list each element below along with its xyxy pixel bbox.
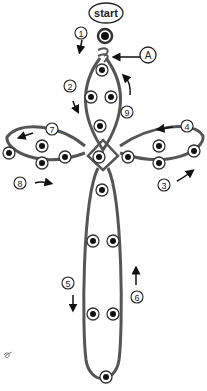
bead <box>94 120 106 132</box>
bead <box>122 151 134 163</box>
step-6: 6 <box>131 291 143 303</box>
svg-text:9: 9 <box>124 108 129 118</box>
step-8: 8 <box>14 177 26 189</box>
beads <box>3 64 200 383</box>
svg-text:A: A <box>145 50 152 61</box>
bead <box>100 371 112 383</box>
svg-text:2: 2 <box>67 82 72 92</box>
bead <box>153 157 165 169</box>
bead <box>96 184 108 196</box>
bead <box>105 91 117 103</box>
step-5: 5 <box>62 277 74 289</box>
start-label: start <box>89 3 123 23</box>
svg-text:7: 7 <box>49 125 54 135</box>
svg-text:5: 5 <box>65 279 70 289</box>
arrow-7 <box>21 133 33 137</box>
step-9: 9 <box>121 106 133 118</box>
step-4: 4 <box>181 120 193 132</box>
bead <box>85 91 97 103</box>
arrow-8 <box>35 182 49 183</box>
svg-text:6: 6 <box>134 293 139 303</box>
step-arrows <box>21 40 191 308</box>
bead <box>93 151 105 163</box>
bead <box>96 64 108 76</box>
bead <box>3 147 15 159</box>
svg-text:3: 3 <box>161 181 166 191</box>
step-2: 2 <box>64 80 76 92</box>
bead <box>188 145 200 157</box>
svg-text:4: 4 <box>184 122 189 132</box>
step-7: 7 <box>46 123 58 135</box>
bead <box>59 151 71 163</box>
bead <box>87 308 99 320</box>
arrow-1 <box>80 40 82 50</box>
bead <box>36 140 48 152</box>
bead <box>36 157 48 169</box>
arrow-2 <box>73 101 77 110</box>
bead <box>153 140 165 152</box>
svg-text:start: start <box>94 7 118 19</box>
svg-text:8: 8 <box>17 179 22 189</box>
step-1: 1 <box>75 27 87 39</box>
signature-mark <box>4 352 12 358</box>
bead <box>87 235 99 247</box>
arrow-9 <box>125 77 130 95</box>
step-3: 3 <box>158 179 170 191</box>
arrow-3 <box>177 172 191 181</box>
bead <box>107 308 119 320</box>
callout-a: A <box>116 47 156 63</box>
wire-cross-diagram: start <box>0 0 207 391</box>
bottom-loop <box>84 168 121 379</box>
svg-text:1: 1 <box>78 29 83 39</box>
bead <box>107 235 119 247</box>
start-bead <box>98 29 112 43</box>
